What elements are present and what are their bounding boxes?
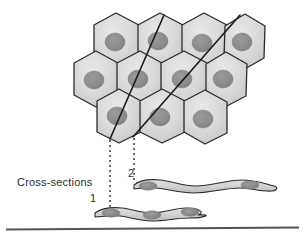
cell-row-3 — [97, 89, 227, 144]
nucleus — [148, 32, 168, 50]
nucleus — [181, 208, 199, 216]
nucleus — [241, 181, 259, 189]
callout-label-1: 1 — [90, 192, 96, 204]
nucleus — [128, 70, 148, 88]
nucleus — [213, 70, 233, 88]
nucleus — [102, 209, 120, 217]
cell-sheet — [74, 13, 265, 144]
nucleus — [232, 33, 252, 51]
nucleus — [193, 110, 213, 128]
nucleus — [84, 71, 104, 89]
nucleus — [105, 33, 125, 51]
baseline-rule — [6, 228, 299, 230]
cross-section-1 — [95, 208, 206, 221]
nucleus — [150, 108, 170, 126]
callout-label-2: 2 — [128, 167, 134, 179]
cell — [184, 90, 227, 144]
nucleus — [139, 182, 157, 190]
cross-sections-label: Cross-sections — [17, 176, 93, 188]
nucleus — [143, 211, 161, 219]
figure-canvas: Cross-sections 1 2 — [0, 0, 305, 239]
cell-sheet-diagram — [0, 0, 305, 239]
cross-section-2 — [134, 180, 277, 193]
cell — [140, 89, 185, 143]
